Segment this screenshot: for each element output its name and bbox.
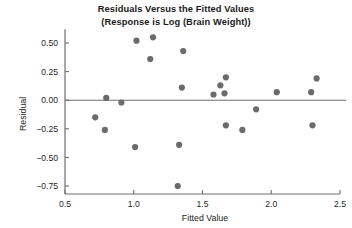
y-tick-label: 0.50 [41, 38, 58, 48]
data-point [308, 89, 314, 95]
data-point [217, 82, 223, 88]
y-tick-label: −0.75 [36, 181, 58, 191]
data-point [103, 95, 109, 101]
data-points-group [92, 34, 320, 189]
data-point [133, 38, 139, 44]
data-point [175, 183, 181, 189]
data-point [309, 122, 315, 128]
data-point [150, 34, 156, 40]
data-point [253, 106, 259, 112]
x-tick-label: 1.5 [197, 199, 209, 209]
data-point [223, 74, 229, 80]
y-tick-label: −0.50 [36, 153, 58, 163]
y-tick-label: −0.25 [36, 124, 58, 134]
data-point [210, 91, 216, 97]
data-point [223, 122, 229, 128]
y-tick-label: 0.25 [41, 67, 58, 77]
data-point [180, 48, 186, 54]
y-tick-labels: 0.500.250.00−0.25−0.50−0.75 [36, 38, 58, 191]
y-axis-title: Residual [18, 97, 28, 131]
residual-plot-figure: Residuals Versus the Fitted Values (Resp… [0, 0, 352, 228]
data-point [118, 99, 124, 105]
data-point [239, 127, 245, 133]
axes-group [65, 29, 346, 194]
data-point [92, 114, 98, 120]
data-point [274, 89, 280, 95]
plot-canvas: 0.51.01.52.02.5 0.500.250.00−0.25−0.50−0… [0, 0, 352, 228]
x-axis-title: Fitted Value [182, 213, 228, 223]
x-tick-label: 2.0 [265, 199, 277, 209]
data-point [221, 90, 227, 96]
data-point [147, 56, 153, 62]
x-tick-label: 2.5 [334, 199, 346, 209]
data-point [176, 142, 182, 148]
data-point [102, 127, 108, 133]
data-point [132, 144, 138, 150]
x-tick-label: 0.5 [59, 199, 71, 209]
data-point [314, 75, 320, 81]
x-tick-labels: 0.51.01.52.02.5 [59, 199, 346, 209]
y-tick-label: 0.00 [41, 95, 58, 105]
data-point [179, 85, 185, 91]
x-tick-label: 1.0 [128, 199, 140, 209]
